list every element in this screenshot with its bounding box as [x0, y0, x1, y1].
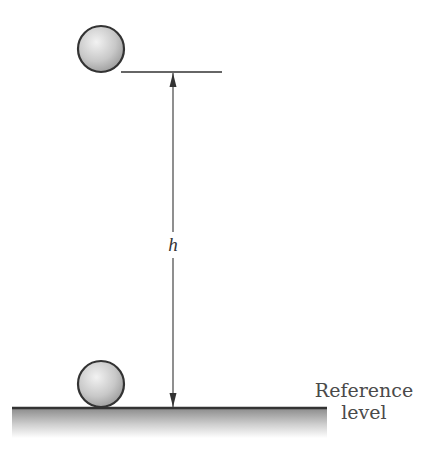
- arrow-up-head-icon: [170, 73, 177, 87]
- height-label: h: [168, 234, 178, 255]
- reference-label-line1: Reference: [315, 379, 413, 401]
- ball-bottom: [78, 361, 124, 407]
- arrow-down-head-icon: [170, 393, 177, 407]
- reference-ground: [12, 408, 327, 438]
- ball-top: [78, 26, 124, 72]
- reference-label-line2: level: [341, 401, 386, 423]
- diagram-canvas: h Reference level: [0, 0, 440, 456]
